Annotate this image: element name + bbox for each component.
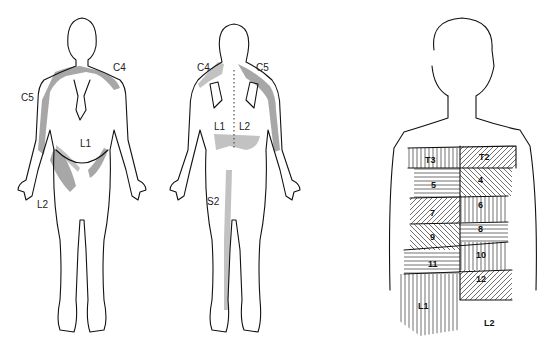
front-label-c4: C4 [113,62,126,73]
segment-label-12: 12 [476,274,486,284]
front-label-c5: C5 [21,92,34,103]
segment-label-7: 7 [430,208,435,218]
back-label-l2: L2 [239,121,251,132]
torso-segment-figure [390,18,537,336]
segment-label-t2: T2 [479,152,490,162]
front-label-l1: L1 [80,138,92,149]
back-label-c5: C5 [256,62,269,73]
segment-label-l2: L2 [484,318,495,328]
back-view-figure [170,24,300,332]
back-label-c4: C4 [197,62,210,73]
back-label-l1: L1 [214,121,226,132]
front-label-l2: L2 [37,199,49,210]
back-label-s2: S2 [207,196,220,207]
segment-label-6: 6 [478,200,483,210]
dermatome-diagram: C4 C5 L1 L2 C4 C5 L1 L2 S2 T3 T2 5 4 [0,0,555,356]
segment-label-11: 11 [428,259,438,269]
segment-label-10: 10 [476,250,486,260]
segment-label-5: 5 [431,180,436,190]
segment-label-4: 4 [478,175,483,185]
segment-label-t3: T3 [425,155,436,165]
front-view-figure [18,18,146,332]
segment-label-9: 9 [430,232,435,242]
segment-label-l1: L1 [418,301,429,311]
segment-label-8: 8 [478,224,483,234]
